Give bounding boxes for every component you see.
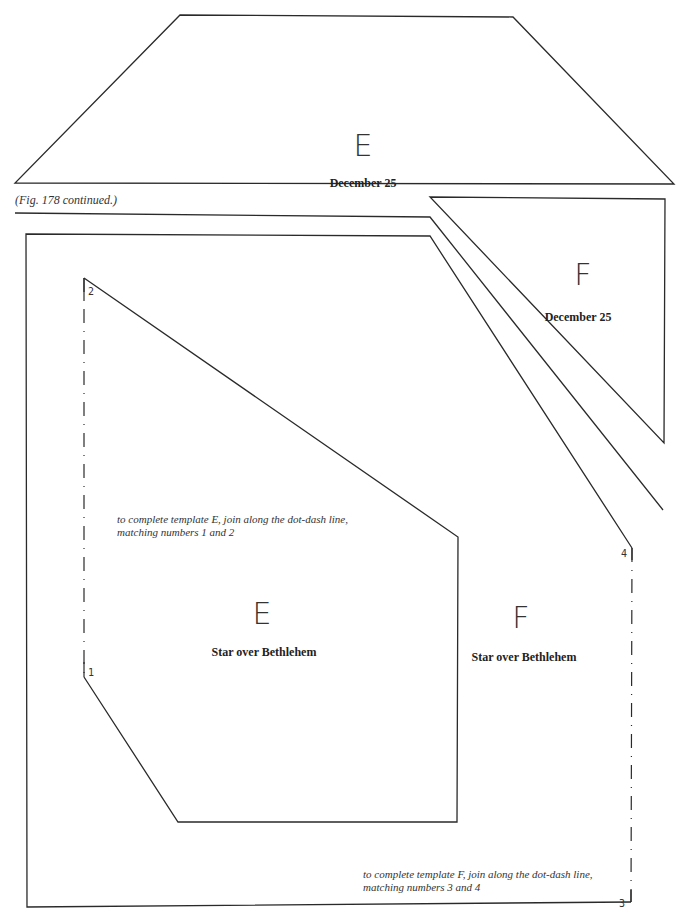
template-f-instruction: to complete template F, join along the d… <box>363 868 625 894</box>
join-number-3: 3 <box>619 898 625 909</box>
template-e-bottom-letter: E <box>253 596 272 631</box>
template-e-letter: E <box>354 128 373 163</box>
join-number-2: 2 <box>88 286 94 297</box>
join-number-1: 1 <box>88 667 94 678</box>
template-e-label: December 25 <box>330 176 397 191</box>
template-f-dot-dash-line <box>631 548 632 902</box>
join-number-4: 4 <box>621 548 627 559</box>
template-e-instruction: to complete template E, join along the d… <box>117 513 377 539</box>
template-f-label: December 25 <box>545 310 612 325</box>
template-e-trapezoid-outline <box>15 15 674 184</box>
template-f-letter: F <box>574 257 591 292</box>
template-f-bottom-label: Star over Bethlehem <box>472 650 577 665</box>
figure-caption: (Fig. 178 continued.) <box>15 193 117 208</box>
template-e-bottom-label: Star over Bethlehem <box>212 645 317 660</box>
separator-line <box>15 213 663 510</box>
template-e-outline <box>84 278 458 822</box>
template-outlines <box>0 0 684 917</box>
template-f-bottom-letter: F <box>512 600 529 635</box>
template-f-outline <box>26 234 632 907</box>
